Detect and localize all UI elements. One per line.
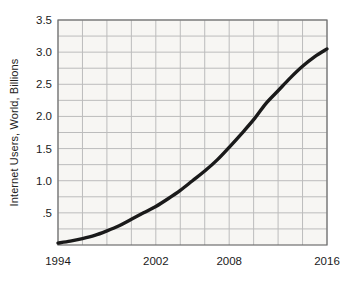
y-tick-label: 2.0 — [36, 110, 52, 122]
y-tick-label: 3.0 — [36, 46, 52, 58]
x-axis-tick-labels: 1994200220082016 — [45, 255, 340, 267]
x-tick-label: 2016 — [314, 255, 340, 267]
y-axis-tick-labels: 3.53.02.52.01.51.0.5 — [36, 14, 52, 219]
y-tick-label: .5 — [42, 207, 52, 219]
y-tick-label: 2.5 — [36, 78, 52, 90]
x-tick-label: 1994 — [45, 255, 71, 267]
x-tick-label: 2002 — [143, 255, 169, 267]
y-axis-title-group: Internet Users, World, Billions — [8, 58, 20, 206]
x-tick-label: 2008 — [216, 255, 242, 267]
y-tick-label: 1.0 — [36, 175, 52, 187]
y-tick-label: 3.5 — [36, 14, 52, 26]
y-tick-label: 1.5 — [36, 143, 52, 155]
y-axis-title: Internet Users, World, Billions — [8, 58, 20, 206]
chart-canvas: 3.53.02.52.01.51.0.5 1994200220082016 In… — [0, 0, 356, 287]
chart-figure: 3.53.02.52.01.51.0.5 1994200220082016 In… — [0, 0, 356, 287]
